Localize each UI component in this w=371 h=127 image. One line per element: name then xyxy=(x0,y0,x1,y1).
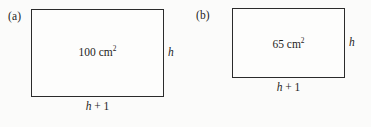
area-exponent-b: 2 xyxy=(301,36,305,45)
area-unit-b: cm xyxy=(287,38,301,50)
figure-panel-b: (b) 65 cm2 h h + 1 xyxy=(186,0,371,127)
panel-label-b: (b) xyxy=(196,9,210,21)
base-label-b: h + 1 xyxy=(232,81,345,93)
geometry-figure: (a) 100 cm2 h h + 1 (b) 65 cm2 h h + 1 xyxy=(0,0,371,127)
figure-panel-a: (a) 100 cm2 h h + 1 xyxy=(0,0,186,127)
area-exponent-a: 2 xyxy=(113,44,117,53)
panel-label-a: (a) xyxy=(8,10,21,22)
height-label-b: h xyxy=(349,36,355,48)
area-label-a: 100 cm2 xyxy=(31,46,164,58)
area-value-a: 100 xyxy=(79,46,96,58)
height-label-a: h xyxy=(168,46,174,58)
area-label-b: 65 cm2 xyxy=(232,38,345,50)
area-unit-a: cm xyxy=(99,46,113,58)
base-expression-a: + 1 xyxy=(91,100,109,112)
base-expression-b: + 1 xyxy=(282,81,300,93)
area-value-b: 65 xyxy=(272,38,284,50)
base-label-a: h + 1 xyxy=(31,100,164,112)
